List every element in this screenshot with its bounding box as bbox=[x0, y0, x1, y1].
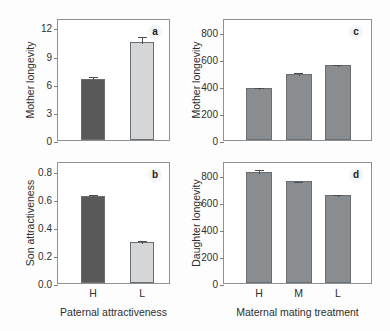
y-tick-label-d-3: 600 bbox=[201, 199, 218, 209]
y-tick-label-c-0: 0 bbox=[212, 137, 218, 147]
y-tick-label-c-4: 800 bbox=[201, 29, 218, 39]
y-tick-label-d-1: 200 bbox=[201, 253, 218, 263]
y-tick-label-c-2: 400 bbox=[201, 83, 218, 93]
y-tick-label-a-2: 6 bbox=[46, 81, 52, 91]
error-cap-d-M bbox=[294, 182, 303, 183]
panel-letter-b: b bbox=[147, 167, 163, 183]
plot-frame-a: 036912a bbox=[57, 19, 170, 141]
y-tick-d-2 bbox=[220, 231, 224, 232]
bar-c-H bbox=[246, 88, 272, 140]
y-tick-label-b-4: 0.8 bbox=[38, 168, 52, 178]
y-tick-c-4 bbox=[220, 34, 224, 35]
bar-a-L bbox=[130, 42, 154, 140]
panel-letter-a: a bbox=[147, 24, 163, 40]
panel-a: 036912a bbox=[57, 19, 170, 141]
y-tick-a-0 bbox=[54, 142, 58, 143]
y-axis-title-b: Son attractiveness bbox=[24, 157, 36, 289]
plot-frame-d: 0200400600800HMLd bbox=[223, 162, 372, 284]
x-axis-title-d: Maternal mating treatment bbox=[223, 306, 372, 318]
y-tick-label-a-1: 3 bbox=[46, 109, 52, 119]
y-tick-d-4 bbox=[220, 177, 224, 178]
error-cap-b-H bbox=[89, 195, 98, 196]
y-tick-label-d-0: 0 bbox=[212, 280, 218, 290]
y-tick-label-a-4: 12 bbox=[41, 24, 52, 34]
plot-frame-c: 0200400600800c bbox=[223, 19, 372, 141]
x-tick-label-d-1: M bbox=[294, 288, 303, 299]
y-tick-label-a-3: 9 bbox=[46, 53, 52, 63]
y-tick-c-3 bbox=[220, 61, 224, 62]
y-axis-title-a: Mother longevity bbox=[24, 14, 36, 146]
y-tick-b-3 bbox=[54, 201, 58, 202]
panel-letter-c: c bbox=[348, 24, 364, 40]
bar-d-M bbox=[286, 181, 312, 283]
y-tick-c-0 bbox=[220, 142, 224, 143]
y-tick-d-0 bbox=[220, 285, 224, 286]
y-tick-label-b-2: 0.4 bbox=[38, 224, 52, 234]
x-tick-label-d-0: H bbox=[255, 288, 263, 299]
y-tick-label-c-3: 600 bbox=[201, 56, 218, 66]
bar-a-H bbox=[81, 79, 105, 140]
y-axis-title-c: Mother longevity bbox=[190, 14, 202, 146]
y-tick-a-2 bbox=[54, 86, 58, 87]
y-tick-label-d-4: 800 bbox=[201, 172, 218, 182]
error-cap-d-L bbox=[333, 195, 342, 196]
error-cap-c-H bbox=[255, 88, 264, 89]
y-tick-label-b-3: 0.6 bbox=[38, 196, 52, 206]
error-cap-b-L bbox=[138, 241, 147, 242]
bar-b-H bbox=[81, 196, 105, 283]
y-axis-title-d: Daughter longevity bbox=[190, 157, 202, 289]
y-tick-a-3 bbox=[54, 58, 58, 59]
y-tick-a-1 bbox=[54, 114, 58, 115]
bar-b-L bbox=[130, 242, 154, 283]
plot-frame-b: 0.00.20.40.60.8HLb bbox=[57, 162, 170, 284]
y-tick-d-3 bbox=[220, 204, 224, 205]
bar-c-L bbox=[325, 65, 351, 140]
y-tick-c-1 bbox=[220, 115, 224, 116]
error-cap-d-H bbox=[255, 170, 264, 171]
x-axis-title-b: Paternal attractiveness bbox=[57, 306, 170, 318]
x-tick-label-d-2: L bbox=[335, 288, 341, 299]
bar-c-M bbox=[286, 74, 312, 140]
panel-c: 0200400600800c bbox=[223, 19, 372, 141]
y-tick-label-b-1: 0.2 bbox=[38, 252, 52, 262]
panel-b: 0.00.20.40.60.8HLb bbox=[57, 162, 170, 284]
figure-canvas: 036912aMother longevity0.00.20.40.60.8HL… bbox=[0, 0, 390, 331]
bar-d-H bbox=[246, 172, 272, 283]
y-tick-b-1 bbox=[54, 257, 58, 258]
y-tick-c-2 bbox=[220, 88, 224, 89]
x-tick-label-b-0: H bbox=[89, 288, 97, 299]
y-tick-label-d-2: 400 bbox=[201, 226, 218, 236]
y-tick-a-4 bbox=[54, 29, 58, 30]
error-cap-c-M bbox=[294, 73, 303, 74]
y-tick-label-a-0: 0 bbox=[46, 137, 52, 147]
y-tick-b-0 bbox=[54, 285, 58, 286]
y-tick-d-1 bbox=[220, 258, 224, 259]
y-tick-label-c-1: 200 bbox=[201, 110, 218, 120]
error-cap-a-L bbox=[138, 37, 147, 38]
y-tick-label-b-0: 0.0 bbox=[38, 280, 52, 290]
panel-letter-d: d bbox=[348, 167, 364, 183]
error-bar-a-L bbox=[142, 37, 143, 44]
panel-d: 0200400600800HMLd bbox=[223, 162, 372, 284]
y-tick-b-2 bbox=[54, 229, 58, 230]
error-cap-a-H bbox=[89, 77, 98, 78]
error-cap-c-L bbox=[333, 65, 342, 66]
x-tick-label-b-1: L bbox=[139, 288, 145, 299]
y-tick-b-4 bbox=[54, 173, 58, 174]
bar-d-L bbox=[325, 195, 351, 283]
